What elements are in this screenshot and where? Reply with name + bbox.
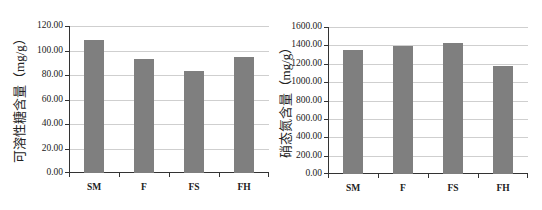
y-tick-label: 40.00	[17, 118, 63, 128]
x-tick	[428, 174, 429, 178]
y-tick-label: 800.00	[272, 95, 322, 105]
bar-fs	[184, 71, 204, 173]
y-tick-label: 120.00	[17, 20, 63, 30]
y-tick-label: 60.00	[17, 94, 63, 104]
gridline	[69, 26, 269, 27]
gridline	[328, 45, 528, 46]
y-tick-label: 0.00	[272, 168, 322, 178]
y-tick-label: 80.00	[17, 69, 63, 79]
y-tick-label: 1600.00	[272, 21, 322, 31]
x-tick	[169, 173, 170, 177]
x-tick	[268, 173, 269, 177]
x-category-label: SM	[69, 182, 119, 192]
x-category-label: F	[378, 183, 428, 193]
bar-fh	[493, 66, 513, 174]
x-tick	[69, 173, 70, 177]
y-tick-label: 1400.00	[272, 39, 322, 49]
x-category-label: F	[119, 182, 169, 192]
bar-f	[134, 59, 154, 173]
y-tick-label: 100.00	[17, 45, 63, 55]
plot-area: 0.00200.00400.00600.00800.001000.001200.…	[328, 27, 528, 174]
bar-fh	[234, 57, 254, 173]
x-tick	[527, 174, 528, 178]
x-tick	[378, 174, 379, 178]
y-tick-label: 1000.00	[272, 76, 322, 86]
y-tick-label: 400.00	[272, 131, 322, 141]
x-category-label: FS	[169, 182, 219, 192]
bar-sm	[343, 50, 363, 174]
x-category-label: SM	[328, 183, 378, 193]
soluble-sugar-chart: 可溶性糖含量（mg/g） 0.0020.0040.0060.0080.00100…	[0, 0, 271, 210]
x-category-label: FH	[478, 183, 528, 193]
y-tick-label: 200.00	[272, 150, 322, 160]
x-tick	[119, 173, 120, 177]
y-tick-label: 20.00	[17, 143, 63, 153]
y-tick-label: 600.00	[272, 113, 322, 123]
x-tick	[328, 174, 329, 178]
x-tick	[219, 173, 220, 177]
nitrate-nitrogen-chart: 硝态氮含量（mg/g） 0.00200.00400.00600.00800.00…	[271, 0, 542, 210]
y-axis	[328, 27, 329, 174]
plot-area: 0.0020.0040.0060.0080.00100.00120.00SMFF…	[69, 26, 269, 173]
y-tick-label: 1200.00	[272, 58, 322, 68]
bar-fs	[443, 43, 463, 174]
bar-sm	[84, 40, 104, 173]
x-tick	[478, 174, 479, 178]
x-category-label: FH	[219, 182, 269, 192]
y-axis	[69, 26, 70, 173]
bar-f	[393, 46, 413, 174]
x-category-label: FS	[428, 183, 478, 193]
y-tick-label: 0.00	[17, 167, 63, 177]
gridline	[328, 27, 528, 28]
